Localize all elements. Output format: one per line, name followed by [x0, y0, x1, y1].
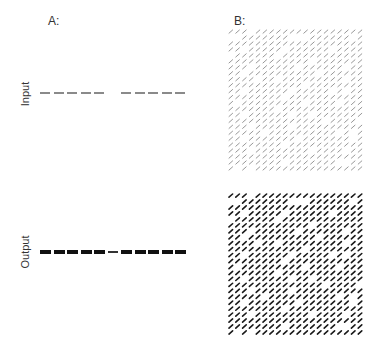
- contour-segment: [175, 250, 186, 254]
- contour-segment: [135, 92, 145, 94]
- contour-segment: [67, 250, 78, 254]
- contour-segment: [67, 92, 77, 94]
- input-texture-grid: [228, 29, 368, 176]
- output-contour-line: [40, 249, 188, 255]
- contour-segment: [54, 92, 64, 94]
- output-row-label: Output: [19, 231, 31, 273]
- contour-segment: [81, 250, 92, 254]
- contour-segment: [121, 250, 132, 254]
- input-contour-line: [40, 90, 188, 96]
- panel-b-label: B:: [234, 14, 245, 28]
- contour-segment: [40, 92, 50, 94]
- texture-grid-svg: [228, 29, 368, 176]
- contour-segment: [148, 250, 159, 254]
- contour-segment: [81, 92, 91, 94]
- contour-segment: [54, 250, 65, 254]
- input-row-label: Input: [19, 77, 31, 111]
- contour-segment: [162, 250, 173, 254]
- contour-segment: [94, 92, 104, 94]
- panel-a-label: A:: [48, 14, 59, 28]
- contour-segment: [175, 92, 185, 94]
- contour-segment: [108, 251, 118, 253]
- texture-grid-svg: [228, 193, 368, 340]
- contour-segment: [135, 250, 146, 254]
- contour-segment: [40, 250, 51, 254]
- contour-segment: [121, 92, 131, 94]
- contour-segment: [94, 250, 105, 254]
- contour-segment: [162, 92, 172, 94]
- output-texture-grid: [228, 193, 368, 340]
- contour-segment: [148, 92, 158, 94]
